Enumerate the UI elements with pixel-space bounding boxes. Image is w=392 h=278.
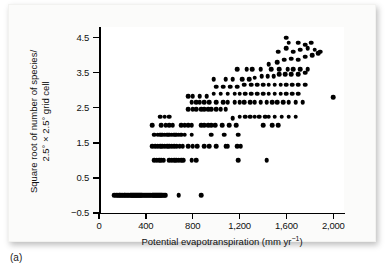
scatter-point bbox=[286, 115, 291, 120]
scatter-point bbox=[223, 77, 228, 82]
scatter-point bbox=[269, 67, 274, 72]
scatter-point bbox=[284, 91, 289, 96]
scatter-point bbox=[276, 49, 281, 54]
scatter-point bbox=[305, 67, 310, 72]
scatter-point bbox=[267, 62, 272, 67]
scatter-point bbox=[290, 82, 295, 87]
scatter-point bbox=[272, 91, 277, 96]
scatter-point bbox=[214, 84, 219, 89]
scatter-point bbox=[261, 91, 266, 96]
scatter-point bbox=[291, 49, 296, 54]
scatter-point bbox=[237, 115, 242, 120]
scatter-point bbox=[255, 91, 260, 96]
y-tick-mark bbox=[93, 107, 99, 108]
scatter-point bbox=[270, 123, 275, 128]
scatter-point bbox=[286, 40, 291, 45]
scatter-point bbox=[226, 100, 231, 105]
scatter-point bbox=[275, 100, 280, 105]
scatter-point bbox=[331, 95, 336, 100]
scatter-point bbox=[222, 132, 227, 137]
scatter-point bbox=[176, 193, 181, 198]
x-tick-mark bbox=[333, 213, 334, 219]
scatter-point bbox=[181, 158, 186, 163]
scatter-point bbox=[180, 144, 185, 149]
y-tick-mark bbox=[93, 142, 99, 143]
scatter-point bbox=[247, 77, 252, 82]
y-axis-title: Square root of number of species/ 2.5° ×… bbox=[28, 32, 51, 212]
scatter-point bbox=[220, 123, 225, 128]
scatter-point bbox=[260, 74, 265, 79]
scatter-point bbox=[296, 91, 301, 96]
scatter-point bbox=[258, 100, 263, 105]
scatter-point bbox=[264, 158, 269, 163]
scatter-point bbox=[171, 123, 176, 128]
scatter-point bbox=[282, 57, 287, 62]
scatter-point bbox=[286, 100, 291, 105]
scatter-point bbox=[190, 94, 195, 99]
scatter-point bbox=[267, 91, 272, 96]
scatter-point bbox=[291, 67, 296, 72]
scatter-point bbox=[235, 84, 240, 89]
scatter-point bbox=[219, 91, 224, 96]
scatter-point bbox=[150, 123, 155, 128]
scatter-point bbox=[212, 91, 217, 96]
scatter-point bbox=[261, 123, 266, 128]
x-axis-title: Potential evapotranspiration (mm yr−1) bbox=[99, 233, 345, 247]
scatter-point bbox=[298, 67, 303, 72]
scatter-point bbox=[310, 53, 315, 58]
scatter-point bbox=[214, 100, 219, 105]
scatter-point bbox=[199, 193, 204, 198]
scatter-point bbox=[167, 115, 172, 120]
scatter-point bbox=[230, 116, 235, 121]
scatter-point bbox=[296, 40, 301, 45]
scatter-point bbox=[163, 193, 168, 198]
scatter-point bbox=[182, 132, 187, 137]
scatter-point bbox=[197, 94, 202, 99]
scatter-point bbox=[249, 82, 254, 87]
scatter-point bbox=[279, 115, 284, 120]
scatter-point bbox=[272, 82, 277, 87]
scatter-point bbox=[267, 82, 272, 87]
scatter-point bbox=[226, 91, 231, 96]
scatter-point bbox=[235, 67, 240, 72]
y-tick-mark bbox=[93, 72, 99, 73]
scatter-point bbox=[213, 123, 218, 128]
scatter-point bbox=[230, 77, 235, 82]
scatter-point bbox=[257, 115, 262, 120]
y-axis-title-line2: 2.5° × 2.5° grid cell bbox=[39, 32, 51, 212]
scatter-point bbox=[249, 91, 254, 96]
scatter-point bbox=[296, 72, 301, 77]
scatter-point bbox=[209, 132, 214, 137]
scatter-point bbox=[296, 82, 301, 87]
scatter-point bbox=[309, 40, 314, 45]
figure-root: 4.53.52.51.50.5−0.5 04008001,2001,6002,0… bbox=[0, 0, 392, 278]
scatter-point bbox=[276, 123, 281, 128]
scatter-point bbox=[318, 49, 323, 54]
x-tick-label-1: 400 bbox=[126, 221, 166, 231]
y-tick-label-3: 1.5 bbox=[59, 138, 89, 148]
scatter-point bbox=[303, 55, 308, 60]
scatter-point bbox=[244, 67, 249, 72]
scatter-point bbox=[161, 158, 166, 163]
scatter-point bbox=[265, 74, 270, 79]
scatter-point bbox=[284, 35, 289, 40]
scatter-point bbox=[228, 84, 233, 89]
scatter-point bbox=[204, 94, 209, 99]
scatter-point bbox=[237, 91, 242, 96]
y-tick-label-1: 3.5 bbox=[59, 68, 89, 78]
scatter-point bbox=[290, 91, 295, 96]
x-axis-title-superscript: −1 bbox=[291, 235, 299, 242]
scatter-point bbox=[242, 82, 247, 87]
scatter-point bbox=[207, 144, 212, 149]
scatter-point bbox=[250, 67, 255, 72]
x-tick-label-5: 2,000 bbox=[313, 221, 353, 231]
y-tick-label-0: 4.5 bbox=[59, 33, 89, 43]
scatter-point bbox=[226, 144, 231, 149]
scatter-point bbox=[194, 158, 199, 163]
scatter-point bbox=[303, 82, 308, 87]
x-tick-mark bbox=[98, 213, 99, 219]
scatter-point bbox=[303, 42, 308, 47]
scatter-point bbox=[236, 158, 241, 163]
figure-caption: (a) bbox=[10, 252, 22, 263]
scatter-point bbox=[214, 144, 219, 149]
